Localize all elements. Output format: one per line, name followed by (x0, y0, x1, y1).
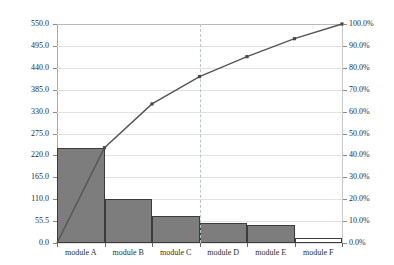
y-axis-right-tick-label: 20.0% (349, 195, 370, 203)
y-axis-right-tick-mark (343, 177, 347, 178)
y-axis-right-tick-label: 0.0% (349, 239, 366, 247)
x-axis-tick-label: module F (295, 248, 343, 257)
y-axis-left-tick-label: 275.0 (31, 130, 49, 138)
y-axis-right-tick-mark (343, 134, 347, 135)
y-axis-right-tick-label: 40.0% (349, 151, 370, 159)
y-axis-right-tick-mark (343, 221, 347, 222)
y-axis-right-tick-label: 70.0% (349, 86, 370, 94)
y-axis-right-tick-mark (343, 112, 347, 113)
x-axis-tick-label: module D (200, 248, 248, 257)
y-axis-left-tick-mark (53, 112, 57, 113)
cumulative-line-marker (103, 146, 106, 149)
y-axis-right-tick-mark (343, 24, 347, 25)
y-axis-left-tick-label: 495.0 (31, 42, 49, 50)
y-axis-left-tick-label: 385.0 (31, 86, 49, 94)
y-axis-left-tick-mark (53, 177, 57, 178)
y-axis-right-tick-mark (343, 90, 347, 91)
y-axis-right-tick-label: 10.0% (349, 217, 370, 225)
y-axis-left-tick-label: 440.0 (31, 64, 49, 72)
plot-area (57, 24, 342, 243)
y-axis-right-tick-label: 90.0% (349, 42, 370, 50)
y-axis-left-tick-mark (53, 221, 57, 222)
y-axis-right-tick-label: 80.0% (349, 64, 370, 72)
x-axis-tick-label: module C (152, 248, 200, 257)
y-axis-left-tick-label: 0.0 (39, 239, 49, 247)
y-axis-left-tick-label: 330.0 (31, 108, 49, 116)
cumulative-line-markers (103, 22, 344, 149)
x-axis-tick-mark (342, 243, 343, 247)
y-axis-right-tick-label: 30.0% (349, 173, 370, 181)
y-axis-left-tick-mark (53, 46, 57, 47)
y-axis-left-tick-mark (53, 199, 57, 200)
x-axis-tick-label: module E (247, 248, 295, 257)
y-axis-left-tick-label: 550.0 (31, 20, 49, 28)
x-axis-tick-mark (105, 243, 106, 247)
x-axis-tick-label: module A (57, 248, 105, 257)
y-axis-left-tick-label: 110.0 (31, 195, 49, 203)
cumulative-line-marker (245, 55, 248, 58)
y-axis-right-tick-mark (343, 199, 347, 200)
x-axis-tick-mark (247, 243, 248, 247)
x-axis-tick-mark (57, 243, 58, 247)
x-axis-tick-mark (200, 243, 201, 247)
y-axis-right-tick-label: 60.0% (349, 108, 370, 116)
y-axis-right-tick-mark (343, 155, 347, 156)
x-axis-tick-label: module B (105, 248, 153, 257)
cumulative-line-marker (198, 75, 201, 78)
x-axis-tick-mark (295, 243, 296, 247)
y-axis-left-tick-mark (53, 90, 57, 91)
cumulative-line-marker (293, 37, 296, 40)
y-axis-left-tick-mark (53, 155, 57, 156)
cumulative-line-path (57, 24, 342, 243)
cumulative-line-marker (150, 102, 153, 105)
cumulative-line-series (57, 24, 342, 243)
y-axis-left-tick-mark (53, 24, 57, 25)
y-axis-left-tick-label: 55.5 (35, 217, 49, 225)
x-axis-tick-mark (152, 243, 153, 247)
y-axis-left-tick-label: 220.0 (31, 151, 49, 159)
pareto-chart: 0.055.5110.0165.0220.0275.0330.0385.0440… (0, 0, 394, 265)
y-axis-left-tick-mark (53, 68, 57, 69)
y-axis-right-tick-label: 100.0% (349, 20, 374, 28)
y-axis-left-tick-label: 165.0 (31, 173, 49, 181)
y-axis-right-tick-mark (343, 243, 347, 244)
y-axis-left-tick-mark (53, 134, 57, 135)
y-axis-right-tick-mark (343, 68, 347, 69)
y-axis-right-tick-label: 50.0% (349, 130, 370, 138)
y-axis-right-tick-mark (343, 46, 347, 47)
